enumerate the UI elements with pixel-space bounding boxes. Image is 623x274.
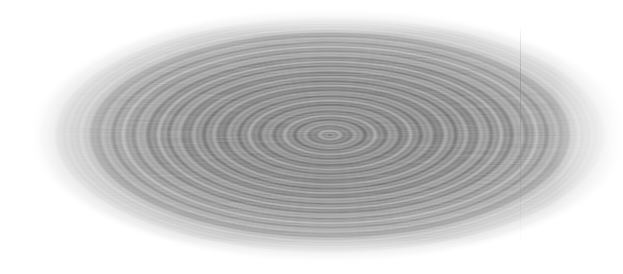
vertical-scanline-artifact — [520, 0, 521, 274]
ellipse-body-glow — [0, 0, 623, 274]
bright-rim-arc — [0, 0, 623, 274]
white-vignette — [0, 0, 623, 274]
top-edge-fade — [0, 0, 623, 274]
noise-texture — [0, 0, 623, 274]
concentric-rings-coarse — [0, 0, 623, 274]
horizontal-streak-texture — [0, 0, 623, 274]
right-edge-fade — [0, 0, 623, 274]
left-edge-fade — [0, 0, 623, 274]
ripple-pattern-image — [0, 0, 623, 274]
outer-dark-halo — [0, 0, 623, 274]
bottom-edge-fade — [0, 0, 623, 274]
concentric-rings-fine — [0, 0, 623, 274]
